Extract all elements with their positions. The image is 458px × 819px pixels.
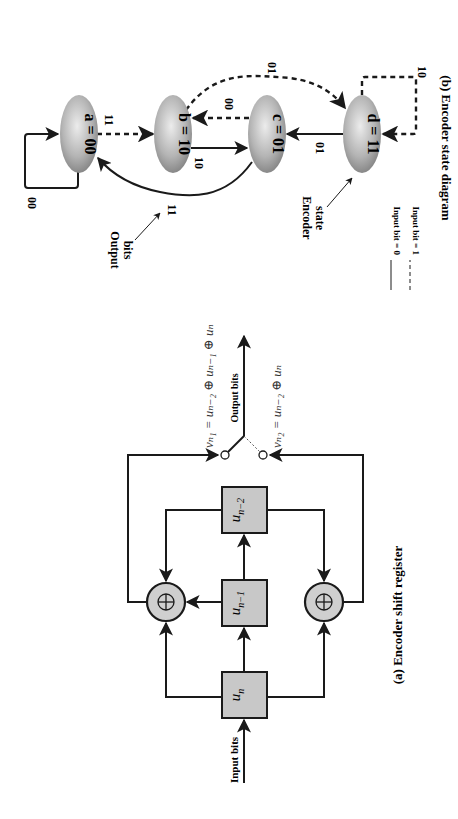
output-bits-label: Output bits <box>229 373 240 422</box>
input-bits-label: Input bits <box>228 736 240 783</box>
legend-solid-label: Input bit = 0 <box>392 207 402 256</box>
register-un: un <box>222 672 267 718</box>
wire-un2-to-adder2 <box>267 510 324 581</box>
register-un-1: un−1 <box>222 580 267 626</box>
state-d-label: d = 11 <box>365 113 382 154</box>
label-c-b: 00 <box>222 98 236 110</box>
state-diagram-caption: (b) Encoder state diagram <box>439 75 454 220</box>
wire-adder1-to-vn1 <box>128 455 218 602</box>
switch-arm-alt <box>244 436 260 452</box>
output-switch <box>221 336 267 459</box>
output-bits-note-line1: Output <box>108 231 122 268</box>
label-c-a: 11 <box>165 204 179 215</box>
wire-un-to-adder2 <box>267 623 324 697</box>
shift-register-caption: (a) Encoder shift register <box>390 546 405 685</box>
shift-register: Input bits un un−1 un−2 <box>128 324 405 783</box>
state-c-label: c = 01 <box>270 114 287 154</box>
encoder-state-pointer <box>327 178 352 207</box>
label-d-c: 01 <box>313 142 327 154</box>
state-b-label: b = 10 <box>176 113 193 155</box>
register-un2-label: u <box>227 515 243 523</box>
register-un2-sub: n−2 <box>235 498 246 515</box>
state-a-label: a = 00 <box>82 113 99 154</box>
wire-adder2-to-vn2 <box>270 455 363 602</box>
legend-dashed-label: Input bit = 1 <box>411 207 421 256</box>
register-un-2: un−2 <box>222 487 267 533</box>
state-diagram: a = 00 b = 10 c = 01 d = 11 00 11 10 01 … <box>25 62 454 290</box>
state-c: c = 01 <box>248 95 287 173</box>
label-d-d: 10 <box>415 66 429 78</box>
label-a-b: 11 <box>102 114 116 125</box>
register-un-sub: n <box>235 689 246 694</box>
state-d: d = 11 <box>343 95 382 173</box>
encoder-state-note-line1: Encoder <box>300 196 314 240</box>
register-un1-label: u <box>227 608 243 616</box>
label-a-a: 00 <box>25 197 39 209</box>
xor-adder-1 <box>147 583 185 621</box>
switch-arm <box>228 436 244 452</box>
label-b-d: 01 <box>265 62 279 74</box>
state-a: a = 00 <box>60 95 99 173</box>
wire-un-to-adder1 <box>166 623 222 697</box>
equation-vn2: vₙ₂ = uₙ₋₂ ⊕ uₙ <box>269 365 284 448</box>
register-un1-sub: n−1 <box>235 591 246 608</box>
output-bits-pointer <box>135 213 160 240</box>
register-un-label: u <box>227 694 243 702</box>
equation-vn1: vₙ₁ = uₙ₋₂ ⊕ uₙ₋₁ ⊕ uₙ <box>201 324 216 448</box>
wire-un2-to-adder1 <box>166 510 222 581</box>
legend: Input bit = 0 Input bit = 1 <box>391 207 421 290</box>
label-b-c: 10 <box>192 157 206 169</box>
figure-canvas: a = 00 b = 10 c = 01 d = 11 00 11 10 01 … <box>0 0 458 819</box>
switch-contact-vn2 <box>259 451 267 459</box>
xor-adder-2 <box>305 583 343 621</box>
switch-contact-vn1 <box>221 451 229 459</box>
output-bits-note-line2: bits <box>121 241 135 260</box>
encoder-state-note-line2: state <box>313 206 327 231</box>
